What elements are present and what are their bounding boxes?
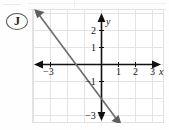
problem-letter-badge: J: [6, 13, 28, 30]
y-tick-label-neg1: −1: [85, 77, 96, 87]
y-axis-label: y: [106, 17, 110, 27]
problem-letter: J: [6, 13, 28, 30]
y-tick-label-neg3: −3: [85, 111, 96, 121]
y-tick-label-1: 1: [91, 43, 96, 53]
x-tick-label-2: 2: [133, 67, 138, 77]
x-tick-label-neg3: −3: [43, 67, 54, 77]
x-tick-label-3: 3: [150, 67, 155, 77]
cropped-figure-artifact-left: [3, 4, 21, 5]
x-axis-label: x: [159, 67, 163, 77]
x-tick-label-1: 1: [116, 67, 121, 77]
coordinate-plane: −3 1 2 3 x 2 1 −1 −3 y: [32, 9, 164, 123]
figure-root: J: [0, 0, 169, 130]
y-tick-label-2: 2: [91, 26, 96, 36]
